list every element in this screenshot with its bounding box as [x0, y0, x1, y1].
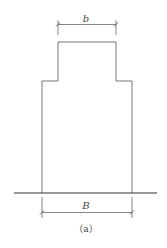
figure-caption: （a）: [74, 225, 97, 234]
dimension-label-b: b: [83, 14, 89, 24]
dimension-label-B: B: [82, 201, 89, 211]
building-outline: [42, 42, 132, 193]
